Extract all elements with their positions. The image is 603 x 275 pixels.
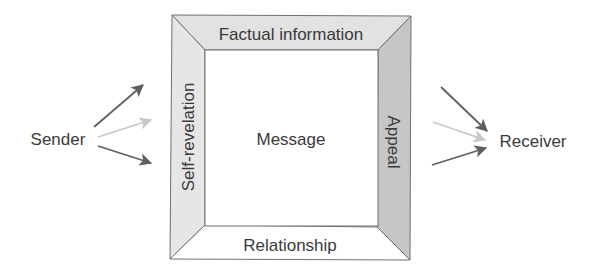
receiver-label: Receiver (499, 132, 566, 151)
sender-arrows (94, 85, 151, 163)
sender-arrow-upper (94, 85, 143, 127)
receiver-arrow-upper (441, 87, 487, 131)
receiver-arrow-middle (433, 122, 485, 140)
receiver-arrows (432, 87, 487, 165)
factual-information-label: Factual information (219, 25, 364, 44)
relationship-label: Relationship (243, 236, 337, 255)
receiver-arrow-lower (432, 148, 486, 165)
self-revelation-label: Self-revelation (179, 83, 198, 192)
communication-square-diagram: Sender Factual information Self-revelati… (0, 0, 603, 275)
message-label: Message (257, 130, 326, 149)
sender-arrow-middle (98, 120, 151, 137)
sender-label: Sender (31, 130, 86, 149)
appeal-label: Appeal (384, 116, 403, 169)
message-square: Factual information Self-revelation Appe… (170, 15, 411, 260)
sender-arrow-lower (98, 146, 151, 163)
